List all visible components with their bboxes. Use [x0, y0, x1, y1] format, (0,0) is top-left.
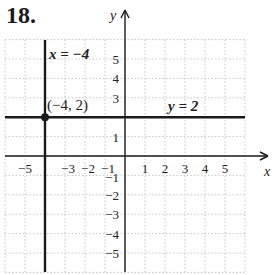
y-axis-label: y: [108, 8, 117, 23]
label-x-equals-neg4: x = −4: [48, 46, 90, 62]
y-tick-label: 3: [113, 91, 120, 106]
y-tick-label: −3: [105, 207, 119, 222]
x-tick-label: 2: [162, 161, 169, 176]
y-tick-label: 4: [113, 71, 120, 86]
x-tick-label: 4: [202, 161, 209, 176]
annotations: x = −4y = 2(−4, 2): [47, 46, 199, 114]
x-tick-label: −3: [61, 161, 75, 176]
point-marker: [41, 113, 49, 121]
coordinate-plane: xy −5−3−2−1123455431−1−2−3−4−5 x = −4y =…: [0, 0, 276, 275]
y-tick-label: −5: [105, 246, 119, 261]
x-tick-label: 1: [142, 161, 149, 176]
y-tick-label: −4: [105, 227, 119, 242]
y-tick-label: −1: [105, 170, 119, 185]
x-axis-label: x: [263, 164, 271, 179]
y-tick-label: 5: [113, 52, 120, 67]
x-tick-label: −2: [81, 161, 95, 176]
label-y-equals-2: y = 2: [166, 98, 199, 114]
y-tick-label: 1: [113, 130, 120, 145]
x-tick-label: −5: [18, 161, 32, 176]
x-tick-label: 3: [182, 161, 189, 176]
y-tick-label: −2: [105, 188, 119, 203]
label-point: (−4, 2): [47, 97, 88, 114]
x-tick-label: 5: [222, 161, 229, 176]
